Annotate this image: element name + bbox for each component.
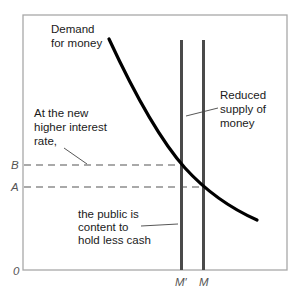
higher-rate-label: At the new higher interest rate, — [34, 107, 110, 147]
origin-label: 0 — [13, 265, 20, 277]
reduced-supply-label: Reduced supply of money — [220, 89, 269, 129]
money-market-diagram: Demand for money At the new higher inter… — [0, 0, 299, 300]
x-tick-M: M — [199, 276, 209, 288]
demand-label: Demand for money — [51, 23, 102, 49]
leader-line-higher-rate — [64, 148, 87, 164]
y-tick-B: B — [11, 159, 19, 171]
x-tick-M-prime: M′ — [175, 276, 188, 288]
leader-line-public — [141, 224, 178, 226]
public-label: the public is content to hold less cash — [78, 208, 151, 246]
y-tick-A: A — [10, 181, 19, 193]
plot-frame — [23, 15, 287, 270]
